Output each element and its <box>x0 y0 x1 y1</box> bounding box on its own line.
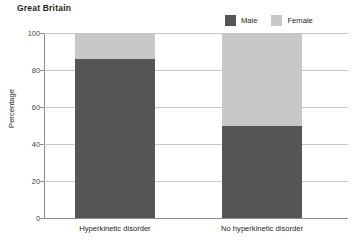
bar-segment-male-no-hyperkinetic-disorder[interactable] <box>222 126 302 219</box>
gridline-0-baseline <box>44 218 348 219</box>
legend-label-female: Female <box>287 16 312 25</box>
y-tick-label-20: 20 <box>14 178 40 185</box>
legend-swatch-female <box>271 15 282 26</box>
y-tick-label-80: 80 <box>14 67 40 74</box>
legend-item-female: Female <box>271 15 312 26</box>
x-tick-label-hyperkinetic-disorder: Hyperkinetic disorder <box>35 224 195 233</box>
y-axis-tick-labels: 100 80 60 40 20 0 <box>10 0 40 249</box>
legend-item-male: Male <box>225 15 257 26</box>
y-tick-label-60: 60 <box>14 104 40 111</box>
bar-segment-female-hyperkinetic-disorder[interactable] <box>75 33 155 59</box>
legend-swatch-male <box>225 15 236 26</box>
legend-label-male: Male <box>241 16 257 25</box>
bar-segment-female-no-hyperkinetic-disorder[interactable] <box>222 33 302 126</box>
x-tick-label-no-hyperkinetic-disorder: No hyperkinetic disorder <box>182 224 342 233</box>
bar-segment-male-hyperkinetic-disorder[interactable] <box>75 59 155 218</box>
plot-area <box>44 33 348 218</box>
y-tick-label-40: 40 <box>14 141 40 148</box>
y-tick-label-0: 0 <box>14 215 40 222</box>
y-tick-label-100: 100 <box>14 30 40 37</box>
chart-legend: Male Female <box>225 14 313 26</box>
